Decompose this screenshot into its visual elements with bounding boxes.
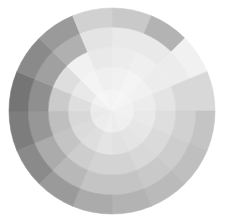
polar-heatmap-canvas	[0, 0, 225, 222]
sector-cells-group	[9, 8, 215, 214]
polar-heatmap-chart	[0, 0, 225, 222]
